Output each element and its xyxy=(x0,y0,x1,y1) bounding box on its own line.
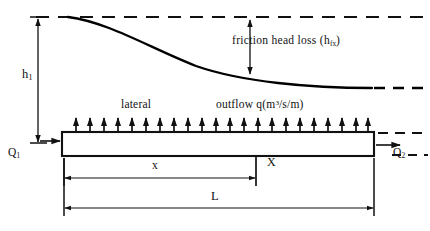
diagram-canvas: friction head loss (hfx) h1 lateral outf… xyxy=(0,0,430,231)
length-L-label: L xyxy=(211,190,219,203)
lateral-label: lateral xyxy=(121,99,151,111)
pipe-body xyxy=(62,132,374,156)
total-head-label: h1 xyxy=(22,68,32,81)
section-X-label: X xyxy=(267,156,276,168)
friction-head-loss-label: friction head loss (hfx) xyxy=(232,35,340,47)
inflow-label: Q1 xyxy=(8,147,20,159)
outflow-label: outflow q(m3/s/m) xyxy=(216,99,304,111)
total-head-dimension xyxy=(30,17,47,143)
dimension-L xyxy=(64,158,374,216)
lateral-outflow-arrows xyxy=(76,118,368,131)
dimension-x xyxy=(64,158,255,186)
hydraulic-grade-line-curve xyxy=(68,17,426,88)
discharge-label: Q2 xyxy=(393,147,405,159)
distance-x-label: x xyxy=(152,160,158,172)
